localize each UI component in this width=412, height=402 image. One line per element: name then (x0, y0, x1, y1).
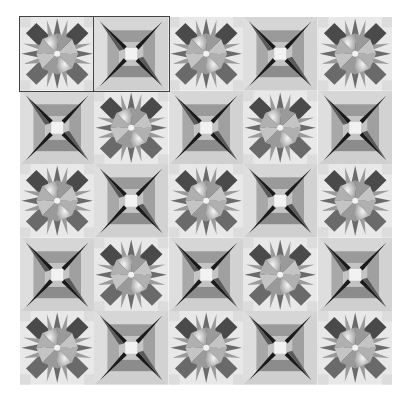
frame-tile (20, 91, 94, 165)
star-pattern-icon (169, 17, 243, 91)
frame-tile (169, 91, 243, 165)
frame-tile (318, 238, 392, 312)
star-pattern-icon (169, 164, 243, 238)
frame-pattern-icon (169, 91, 243, 165)
frame-pattern-icon (94, 164, 168, 238)
frame-tile (94, 311, 168, 385)
star-pattern-icon (169, 311, 243, 385)
star-pattern-icon (318, 17, 392, 91)
star-pattern-icon (318, 164, 392, 238)
frame-tile (243, 311, 317, 385)
star-tile (169, 164, 243, 238)
frame-pattern-icon (20, 238, 94, 312)
star-pattern-icon (94, 91, 168, 165)
frame-pattern-icon (318, 91, 392, 165)
star-tile (318, 164, 392, 238)
frame-pattern-icon (94, 311, 168, 385)
star-tile (20, 164, 94, 238)
frame-tile (243, 17, 317, 91)
star-pattern-icon (243, 238, 317, 312)
star-pattern-icon (20, 17, 94, 91)
star-tile (169, 17, 243, 91)
frame-pattern-icon (243, 164, 317, 238)
frame-pattern-icon (243, 17, 317, 91)
frame-pattern-icon (318, 238, 392, 312)
frame-tile (94, 164, 168, 238)
star-tile (20, 17, 94, 91)
star-tile (243, 91, 317, 165)
frame-pattern-icon (243, 311, 317, 385)
star-tile (94, 238, 168, 312)
star-tile (169, 311, 243, 385)
star-tile (94, 91, 168, 165)
star-tile (20, 311, 94, 385)
star-pattern-icon (243, 91, 317, 165)
frame-tile (20, 238, 94, 312)
frame-tile (94, 17, 168, 91)
star-pattern-icon (20, 311, 94, 385)
star-pattern-icon (94, 238, 168, 312)
frame-tile (318, 91, 392, 165)
frame-pattern-icon (169, 238, 243, 312)
star-tile (318, 17, 392, 91)
star-tile (243, 238, 317, 312)
tile-grid (20, 17, 392, 385)
frame-pattern-icon (20, 91, 94, 165)
star-tile (318, 311, 392, 385)
star-pattern-icon (318, 311, 392, 385)
frame-tile (169, 238, 243, 312)
frame-tile (243, 164, 317, 238)
frame-pattern-icon (94, 17, 168, 91)
star-pattern-icon (20, 164, 94, 238)
